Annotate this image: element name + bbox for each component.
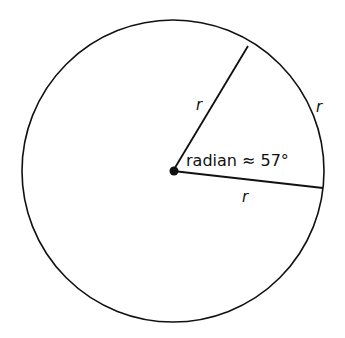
arc-length-label: r	[316, 98, 323, 116]
radius-label-upper: r	[196, 96, 203, 114]
right-radius-line	[173, 171, 323, 188]
radius-label-lower: r	[242, 188, 249, 206]
center-point	[170, 167, 179, 176]
angle-label: radian ≈ 57°	[186, 151, 289, 170]
radian-diagram: r r r radian ≈ 57°	[0, 0, 345, 338]
